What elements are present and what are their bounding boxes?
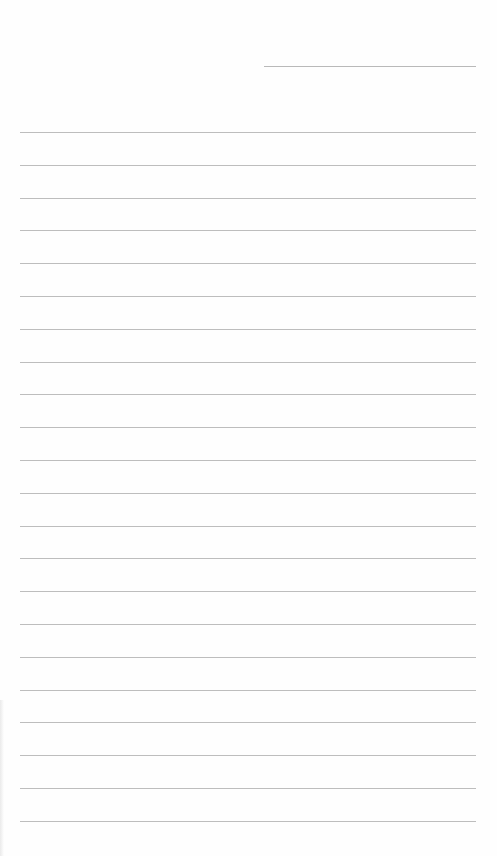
ruled-line [20,198,476,199]
ruled-line [20,788,476,789]
ruled-line [20,230,476,231]
ruled-line [20,493,476,494]
ruled-line [20,657,476,658]
ruled-line [20,460,476,461]
ruled-line [20,821,476,822]
ruled-line [20,427,476,428]
ruled-line [20,624,476,625]
page-edge-shadow [0,700,4,856]
ruled-line [20,690,476,691]
ruled-line [20,394,476,395]
ruled-line [20,263,476,264]
ruled-line [20,722,476,723]
ruled-line [20,132,476,133]
ruled-line [20,296,476,297]
ruled-line [20,165,476,166]
lined-paper-page [0,0,497,856]
header-name-line [264,66,476,67]
ruled-line [20,591,476,592]
ruled-line [20,755,476,756]
ruled-line [20,526,476,527]
ruled-line [20,558,476,559]
ruled-line [20,362,476,363]
ruled-line [20,329,476,330]
